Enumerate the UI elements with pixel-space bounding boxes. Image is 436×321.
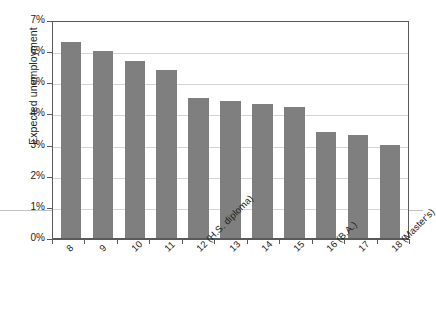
bar-slot: [246, 22, 278, 238]
bar-slot: [183, 22, 215, 238]
bar-slot: [55, 22, 87, 238]
bar-slot: [119, 22, 151, 238]
bar-slot: [151, 22, 183, 238]
x-tick-mark: [312, 239, 313, 244]
bar[interactable]: [125, 61, 145, 239]
x-tick-mark: [84, 239, 85, 244]
bar-slot: [310, 22, 342, 238]
x-tick-mark: [117, 239, 118, 244]
bar[interactable]: [61, 42, 81, 238]
bar-slot: [374, 22, 406, 238]
x-tick-mark: [52, 239, 53, 244]
x-tick-mark: [247, 239, 248, 244]
plot-area: [52, 21, 409, 239]
y-tick-label: 0%: [31, 232, 45, 243]
x-tick-mark: [279, 239, 280, 244]
bar[interactable]: [316, 132, 336, 238]
bar[interactable]: [380, 145, 400, 238]
y-tick-label: 1%: [31, 201, 45, 212]
y-tick-label: 6%: [31, 45, 45, 56]
bar[interactable]: [156, 70, 176, 238]
x-tick-mark: [182, 239, 183, 244]
bar[interactable]: [93, 51, 113, 238]
bar[interactable]: [284, 107, 304, 238]
y-tick-label: 7%: [31, 14, 45, 25]
bar-slot: [87, 22, 119, 238]
bar[interactable]: [252, 104, 272, 238]
x-axis-line: [52, 239, 409, 240]
x-tick-mark: [377, 239, 378, 244]
bar-slot: [342, 22, 374, 238]
bar[interactable]: [188, 98, 208, 238]
y-tick-label: 4%: [31, 107, 45, 118]
y-tick-label: 5%: [31, 76, 45, 87]
y-tick-label: 3%: [31, 139, 45, 150]
x-tick-mark: [149, 239, 150, 244]
bar-slot: [278, 22, 310, 238]
bar-series: [53, 22, 408, 238]
y-tick-label: 2%: [31, 170, 45, 181]
